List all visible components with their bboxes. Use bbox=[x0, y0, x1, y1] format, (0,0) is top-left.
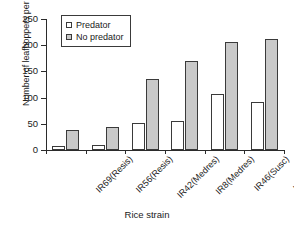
x-axis-tick bbox=[165, 150, 166, 154]
bar-no-predator bbox=[106, 127, 119, 150]
y-axis-tick: 50 bbox=[41, 124, 46, 125]
x-axis-tick bbox=[46, 150, 47, 154]
legend: Predator No predator bbox=[61, 15, 131, 47]
bar-chart-figure: Number of leafhoppers per plant 05010015… bbox=[0, 0, 294, 230]
bar-no-predator bbox=[66, 130, 79, 150]
y-axis-tick: 150 bbox=[41, 71, 46, 72]
y-axis-tick-label: 150 bbox=[22, 65, 38, 76]
legend-item-predator: Predator bbox=[66, 19, 124, 31]
y-axis-line bbox=[46, 19, 47, 150]
y-axis-tick-label: 250 bbox=[22, 13, 38, 24]
y-axis-tick-label: 0 bbox=[33, 144, 38, 155]
bar-predator bbox=[92, 145, 105, 150]
bar-predator bbox=[52, 146, 65, 150]
y-axis-tick-label: 100 bbox=[22, 92, 38, 103]
x-axis-tick-label: IR69(Resis) bbox=[94, 154, 135, 195]
legend-item-no-predator: No predator bbox=[66, 31, 124, 43]
legend-swatch-no-predator-icon bbox=[66, 34, 72, 40]
y-axis-tick: 100 bbox=[41, 98, 46, 99]
bar-no-predator bbox=[185, 61, 198, 150]
x-axis-tick-label: IR46(Susc) bbox=[252, 154, 291, 193]
x-axis-tick-label: IR22(Susc) bbox=[291, 154, 294, 193]
x-axis-title: Rice strain bbox=[0, 209, 294, 220]
bar-no-predator bbox=[225, 42, 238, 150]
x-axis-tick bbox=[125, 150, 126, 154]
x-axis-tick-label: IR56(Resis) bbox=[133, 154, 174, 195]
legend-label-predator: Predator bbox=[76, 20, 111, 30]
legend-swatch-predator-icon bbox=[66, 22, 72, 28]
bar-no-predator bbox=[146, 79, 159, 150]
x-axis-tick bbox=[205, 150, 206, 154]
bar-no-predator bbox=[265, 39, 278, 150]
y-axis-tick-label: 200 bbox=[22, 39, 38, 50]
x-axis-tick bbox=[86, 150, 87, 154]
bar-predator bbox=[132, 123, 145, 150]
x-axis-tick-label: IR42(Medres) bbox=[175, 154, 221, 200]
bar-predator bbox=[251, 102, 264, 150]
bar-predator bbox=[211, 94, 224, 150]
y-axis-tick: 200 bbox=[41, 45, 46, 46]
y-axis-tick-label: 50 bbox=[27, 118, 38, 129]
x-axis-tick bbox=[244, 150, 245, 154]
y-axis-tick: 250 bbox=[41, 19, 46, 20]
bar-predator bbox=[171, 121, 184, 150]
legend-label-no-predator: No predator bbox=[76, 32, 124, 42]
